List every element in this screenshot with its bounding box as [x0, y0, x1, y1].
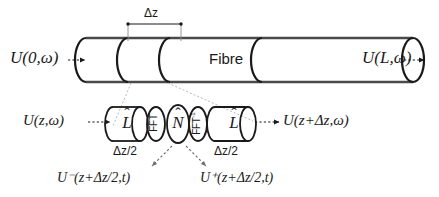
nonlinear-operator-glyph: ̂N — [169, 114, 187, 131]
input-field-label-step: U(z,ω) — [23, 113, 64, 128]
linear-operator-letter-2: L — [229, 113, 238, 132]
linear-operator-glyph-2: ̂L — [225, 114, 243, 131]
halfstep-label-right: Δz/2 — [214, 145, 238, 157]
slice-boundary-right — [159, 38, 170, 82]
output-field-label-step: U(z+Δz,ω) — [283, 113, 349, 128]
diagram-canvas — [0, 0, 439, 197]
input-field-label-top: U(0,ω) — [10, 49, 58, 66]
output-field-label-top: U(L,ω) — [362, 49, 411, 66]
fft-forward-glyph: FFT — [149, 110, 159, 136]
linear-operator-letter-1: L — [122, 113, 131, 132]
pointer-u-minus — [152, 146, 172, 166]
fft-inverse-text: FFT — [191, 117, 202, 134]
field-label-after-nonlinear: U⁺(z+Δz/2,t) — [200, 171, 273, 185]
linear-operator-glyph-1: ̂L — [118, 114, 136, 131]
fft-inverse-superscript: -1 — [189, 112, 196, 117]
fibre-label: Fibre — [209, 51, 243, 66]
slice-boundary-left — [117, 38, 128, 82]
step-size-label: Δz — [144, 7, 158, 19]
fibre-split-step-diagram: U(0,ω) U(L,ω) Fibre Δz U(z,ω) U(z+Δz,ω) … — [0, 0, 439, 197]
halfstep-label-left: Δz/2 — [113, 145, 137, 157]
fft-forward-text: FFT — [148, 114, 159, 131]
nonlinear-operator-letter: N — [172, 113, 183, 132]
fft-inverse-glyph: FFT-1 — [190, 111, 201, 137]
slice-boundary-far — [251, 38, 262, 82]
pointer-u-plus — [186, 146, 206, 166]
field-label-before-nonlinear: U⁻(z+Δz/2,t) — [57, 171, 130, 185]
